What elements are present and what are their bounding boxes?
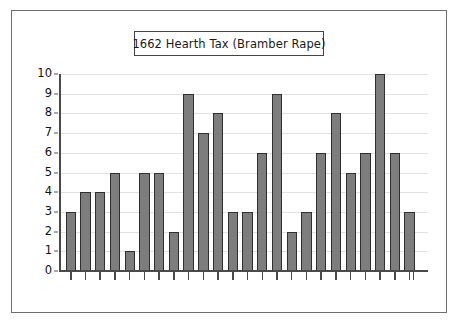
y-tick-label: 10 [37, 68, 52, 80]
y-tick-mark [54, 231, 58, 232]
bar [125, 251, 135, 271]
y-tick-label: 5 [45, 167, 52, 179]
x-tick-mark [144, 272, 146, 280]
x-tick-mark [365, 272, 367, 280]
x-tick-mark [413, 272, 415, 280]
x-tick-mark [320, 272, 322, 280]
x-tick-mark [114, 272, 116, 280]
y-tick-mark [54, 93, 58, 94]
x-tick-mark [203, 272, 205, 280]
bar [331, 113, 341, 271]
x-tick-mark [85, 272, 87, 280]
y-tick-mark [54, 192, 58, 193]
x-tick-mark [217, 272, 219, 280]
y-tick-label: 0 [45, 265, 52, 277]
y-tick-label: 1 [45, 246, 52, 258]
x-tick-mark [262, 272, 264, 280]
y-tick-mark [54, 74, 58, 75]
bar [272, 94, 282, 271]
bar [183, 94, 193, 271]
y-tick-mark [54, 271, 58, 272]
x-tick-mark [291, 272, 293, 280]
x-tick-mark [232, 272, 234, 280]
x-tick-mark [247, 272, 249, 280]
y-tick-label: 7 [45, 127, 52, 139]
y-tick-mark [54, 211, 58, 212]
bar [390, 153, 400, 271]
axes [59, 74, 428, 271]
y-tick-mark [54, 113, 58, 114]
x-tick-mark [99, 272, 101, 280]
bar [154, 173, 164, 272]
y-tick-mark [54, 152, 58, 153]
bar-series [59, 74, 428, 271]
plot-area: 012345678910 [30, 74, 432, 299]
bar [213, 113, 223, 271]
x-tick-mark [129, 272, 131, 280]
y-axis-labels: 012345678910 [30, 74, 52, 271]
bar [95, 192, 105, 271]
y-tick-label: 9 [45, 88, 52, 100]
x-tick-mark [276, 272, 278, 280]
bar [80, 192, 90, 271]
bar [257, 153, 267, 271]
x-tick-mark [379, 272, 381, 280]
x-axis-ticks [59, 272, 428, 282]
x-tick-mark [70, 272, 72, 280]
bar [139, 173, 149, 272]
bar [110, 173, 120, 272]
bar [287, 232, 297, 271]
y-tick-label: 8 [45, 108, 52, 120]
bar [242, 212, 252, 271]
bar [404, 212, 414, 271]
x-tick-mark [158, 272, 160, 280]
chart-title: 1662 Hearth Tax (Bramber Rape) [132, 37, 325, 51]
x-tick-mark [409, 272, 411, 280]
y-tick-label: 2 [45, 226, 52, 238]
bar [360, 153, 370, 271]
x-tick-mark [188, 272, 190, 280]
bar [228, 212, 238, 271]
bar [169, 232, 179, 271]
bar [375, 74, 385, 271]
y-tick-mark [54, 251, 58, 252]
y-tick-label: 4 [45, 186, 52, 198]
y-tick-label: 6 [45, 147, 52, 159]
x-tick-mark [173, 272, 175, 280]
x-tick-mark [306, 272, 308, 280]
y-tick-mark [54, 172, 58, 173]
y-tick-mark [54, 133, 58, 134]
bar [316, 153, 326, 271]
bar [346, 173, 356, 272]
x-tick-mark [335, 272, 337, 280]
bar [198, 133, 208, 271]
bar [301, 212, 311, 271]
chart-title-box: 1662 Hearth Tax (Bramber Rape) [134, 31, 324, 56]
x-tick-mark [394, 272, 396, 280]
chart-figure: 1662 Hearth Tax (Bramber Rape) 012345678… [11, 10, 447, 313]
bar [66, 212, 76, 271]
y-tick-label: 3 [45, 206, 52, 218]
x-tick-mark [350, 272, 352, 280]
